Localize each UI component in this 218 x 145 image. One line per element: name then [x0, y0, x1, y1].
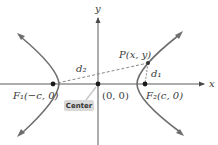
focus1-point [51, 82, 56, 87]
focus1-label: F₁(−c, 0) [12, 90, 59, 101]
distance-d2-line [53, 63, 148, 84]
point-p [146, 61, 150, 65]
y-axis-label: y [94, 3, 101, 14]
origin-label: (0, 0) [102, 90, 129, 101]
center-leader-line [86, 87, 96, 100]
focus2-label: F₂(c, 0) [145, 90, 183, 101]
focus2-point [143, 82, 148, 87]
d1-label: d₁ [151, 68, 161, 79]
hyperbola-diagram: y x d₂ d₁ F₁(−c, 0) (0, 0) F₂(c, 0) P(x,… [0, 0, 218, 145]
x-axis-label: x [209, 78, 215, 89]
center-callout-label: Center [66, 102, 93, 110]
d2-label: d₂ [76, 63, 86, 74]
origin-point [96, 82, 101, 87]
arrow-left-bottom-icon [17, 129, 25, 137]
point-p-label: P(x, y) [118, 49, 151, 60]
